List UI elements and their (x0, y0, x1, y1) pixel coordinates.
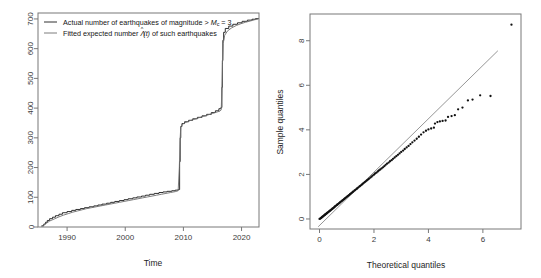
qq-data-point (479, 94, 481, 96)
series-actual-line (41, 18, 258, 225)
qq-data-point (433, 126, 435, 128)
qq-y-tick-label: 4 (298, 127, 307, 132)
qq-data-point (409, 143, 411, 145)
qq-y-tick-label: 6 (298, 83, 307, 88)
qq-y-axis-title: Sample quantiles (275, 89, 285, 154)
left-y-tick-label: 700 (27, 12, 36, 26)
left-y-tick-label: 0 (27, 224, 36, 229)
qq-data-point (454, 114, 456, 116)
qq-plot-box (310, 14, 521, 229)
left-y-tick-label: 200 (27, 160, 36, 174)
qq-data-point (406, 146, 408, 148)
qq-data-point (436, 121, 438, 123)
qq-svg: 024680246 Theoretical quantiles Sample q… (270, 0, 541, 278)
qq-data-point (420, 133, 422, 135)
left-x-tick-label: 1990 (58, 233, 76, 242)
cumulative-count-panel: 01002003004005006007001990200020102020 A… (0, 0, 270, 278)
qq-data-point (444, 119, 446, 121)
left-x-axis-title: Time (144, 258, 163, 268)
qq-data-point (447, 116, 449, 118)
qq-data-point (441, 120, 443, 122)
qq-data-point (416, 138, 418, 140)
qq-x-axis-title: Theoretical quantiles (367, 260, 445, 270)
qq-data-point (461, 106, 463, 108)
left-y-tick-label: 400 (27, 101, 36, 115)
qq-panel: 024680246 Theoretical quantiles Sample q… (270, 0, 541, 278)
left-series-group (41, 18, 258, 226)
left-legend: Actual number of earthquakes of magnitud… (44, 18, 232, 38)
qq-data-point (430, 127, 432, 129)
qq-data-point (422, 131, 424, 133)
left-y-tick-label: 300 (27, 131, 36, 145)
left-y-tick-label: 600 (27, 41, 36, 55)
qq-x-tick-label: 2 (372, 235, 377, 244)
legend-label-fitted: Fitted expected number Λ^(t) of such ear… (63, 26, 217, 37)
qq-x-tick-label: 0 (317, 235, 322, 244)
qq-y-tick-label: 8 (298, 38, 307, 43)
qq-data-point (404, 148, 406, 150)
left-x-tick-label: 2000 (116, 233, 134, 242)
cumulative-count-svg: 01002003004005006007001990200020102020 A… (0, 0, 270, 278)
qq-x-tick-label: 6 (481, 235, 486, 244)
r-plot-figure: 01002003004005006007001990200020102020 A… (0, 0, 541, 278)
qq-data-point (489, 95, 491, 97)
qq-data-point (457, 108, 459, 110)
left-x-tick-label: 2010 (174, 233, 192, 242)
qq-data-point (434, 122, 436, 124)
qq-data-point (427, 128, 429, 130)
qq-points-group (318, 24, 512, 227)
qq-data-point (450, 115, 452, 117)
qq-data-point (413, 139, 415, 141)
legend-label-actual: Actual number of earthquakes of magnitud… (63, 18, 232, 28)
qq-y-tick-label: 2 (298, 172, 307, 177)
qq-data-point (471, 98, 473, 100)
qq-data-point (400, 151, 402, 153)
qq-data-point (418, 136, 420, 138)
qq-data-point (411, 141, 413, 143)
qq-data-point (407, 145, 409, 147)
qq-data-point (510, 24, 512, 26)
left-x-tick-label: 2020 (233, 233, 251, 242)
left-axes: 01002003004005006007001990200020102020 (27, 12, 260, 242)
qq-data-point (425, 130, 427, 132)
qq-x-tick-label: 4 (426, 235, 431, 244)
qq-data-point (439, 120, 441, 122)
left-y-tick-label: 500 (27, 71, 36, 85)
left-y-tick-label: 100 (27, 190, 36, 204)
qq-data-point (467, 99, 469, 101)
qq-y-tick-label: 0 (298, 216, 307, 221)
qq-reference-line (318, 51, 498, 227)
